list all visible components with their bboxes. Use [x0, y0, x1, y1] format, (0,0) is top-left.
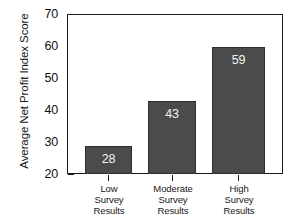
y-tick-label: 40	[44, 102, 58, 118]
y-tick-label: 20	[44, 166, 58, 182]
x-tick-mark-low	[108, 175, 109, 181]
bar-chart: Average Net Profit Index Score 70 60 50 …	[0, 0, 293, 218]
x-category-line: High	[194, 183, 284, 194]
bar-value-label: 28	[86, 152, 131, 166]
y-tick-20: 20	[0, 174, 67, 175]
y-tick-label: 60	[44, 38, 58, 54]
x-category-line: Results	[194, 205, 284, 216]
bar-value-label: 59	[213, 53, 264, 67]
x-category-label-high: High Survey Results	[194, 183, 284, 216]
y-tick-70: 70	[0, 14, 67, 15]
y-tick-mark	[68, 174, 74, 175]
x-tick-mark-moderate	[172, 175, 173, 181]
y-tick-40: 40	[0, 110, 67, 111]
y-tick-50: 50	[0, 78, 67, 79]
x-category-line: Survey	[194, 194, 284, 205]
bar-high-survey-results: 59	[212, 47, 265, 174]
bar-moderate-survey-results: 43	[148, 101, 196, 174]
bar-value-label: 43	[149, 107, 195, 121]
y-axis-title: Average Net Profit Index Score	[16, 1, 32, 181]
bar-low-survey-results: 28	[85, 146, 132, 174]
y-tick-label: 30	[44, 134, 58, 150]
x-tick-mark-high	[238, 175, 239, 181]
y-tick-label: 70	[44, 6, 58, 22]
y-tick-label: 50	[44, 70, 58, 86]
y-tick-30: 30	[0, 142, 67, 143]
y-tick-60: 60	[0, 46, 67, 47]
